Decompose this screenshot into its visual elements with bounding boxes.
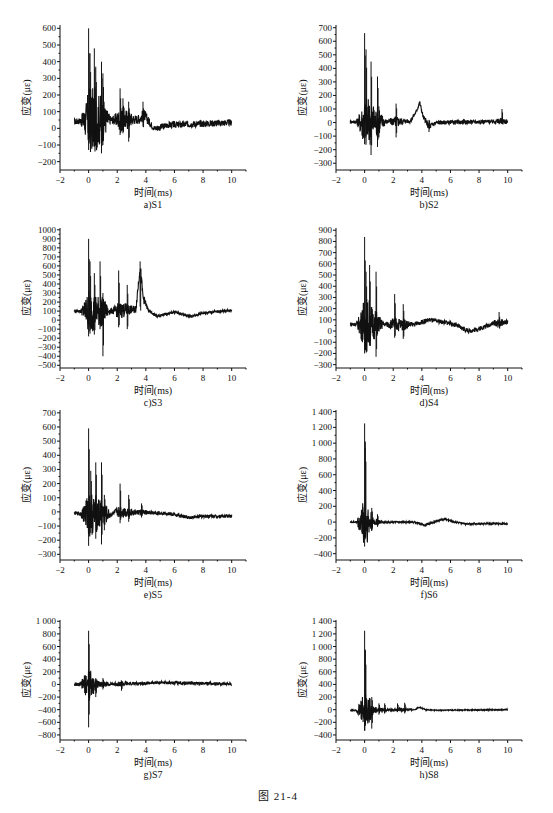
svg-text:时间(ms): 时间(ms) bbox=[410, 756, 448, 769]
panel-g: 1 0008006004002000−200−400−600−800−20246… bbox=[20, 610, 260, 780]
svg-text:0: 0 bbox=[328, 705, 333, 715]
svg-text:−100: −100 bbox=[37, 521, 56, 531]
svg-text:8: 8 bbox=[201, 565, 206, 575]
svg-text:−2: −2 bbox=[331, 745, 341, 755]
svg-text:时间(ms): 时间(ms) bbox=[410, 384, 448, 397]
svg-text:0: 0 bbox=[86, 565, 91, 575]
svg-text:700: 700 bbox=[43, 408, 57, 418]
caption-a: a)S1 bbox=[133, 199, 173, 210]
svg-text:4: 4 bbox=[144, 565, 149, 575]
svg-text:800: 800 bbox=[43, 629, 57, 639]
svg-text:600: 600 bbox=[319, 36, 333, 46]
svg-text:0: 0 bbox=[86, 745, 91, 755]
svg-text:6: 6 bbox=[172, 175, 177, 185]
svg-text:−300: −300 bbox=[37, 549, 56, 559]
svg-text:−2: −2 bbox=[331, 373, 341, 383]
svg-text:0: 0 bbox=[362, 745, 367, 755]
svg-text:时间(ms): 时间(ms) bbox=[134, 186, 172, 199]
svg-text:8: 8 bbox=[201, 373, 206, 383]
svg-text:400: 400 bbox=[43, 57, 57, 67]
strain-chart-b: 7006005004003002001000−100−200−300−20246… bbox=[296, 15, 536, 210]
caption-c: c)S3 bbox=[133, 397, 173, 408]
axes bbox=[333, 410, 522, 563]
svg-text:4: 4 bbox=[420, 175, 425, 185]
svg-text:2: 2 bbox=[391, 745, 396, 755]
axes bbox=[333, 228, 522, 371]
svg-text:4: 4 bbox=[144, 373, 149, 383]
svg-text:2: 2 bbox=[391, 175, 396, 185]
svg-text:6: 6 bbox=[448, 175, 453, 185]
caption-d: d)S4 bbox=[409, 397, 449, 408]
svg-text:−300: −300 bbox=[313, 360, 332, 370]
signal-spikes bbox=[365, 237, 500, 357]
svg-text:−400: −400 bbox=[313, 730, 332, 740]
svg-text:300: 300 bbox=[319, 77, 333, 87]
svg-text:10: 10 bbox=[227, 373, 237, 383]
panel-d: 9008007006005004003002001000−100−200−300… bbox=[296, 218, 536, 408]
svg-text:100: 100 bbox=[319, 315, 333, 325]
svg-text:时间(ms): 时间(ms) bbox=[410, 576, 448, 589]
svg-text:时间(ms): 时间(ms) bbox=[134, 576, 172, 589]
svg-text:400: 400 bbox=[43, 450, 57, 460]
svg-text:应变(με): 应变(με) bbox=[20, 79, 33, 115]
signal-spikes bbox=[365, 33, 503, 155]
svg-text:600: 600 bbox=[43, 23, 57, 33]
svg-text:600: 600 bbox=[319, 259, 333, 269]
svg-text:1 200: 1 200 bbox=[312, 422, 333, 432]
svg-text:10: 10 bbox=[227, 565, 237, 575]
svg-text:0: 0 bbox=[86, 373, 91, 383]
signal-spikes bbox=[89, 428, 143, 545]
svg-text:0: 0 bbox=[328, 517, 333, 527]
svg-text:800: 800 bbox=[319, 236, 333, 246]
svg-text:0: 0 bbox=[86, 175, 91, 185]
svg-text:6: 6 bbox=[172, 565, 177, 575]
svg-text:2: 2 bbox=[115, 745, 120, 755]
caption-g: g)S7 bbox=[133, 769, 173, 780]
caption-b: b)S2 bbox=[409, 199, 449, 210]
signal-trace bbox=[74, 495, 231, 537]
axes bbox=[57, 25, 246, 173]
strain-chart-c: 10009008007006005004003002001000−100−200… bbox=[20, 218, 260, 408]
svg-text:100: 100 bbox=[319, 104, 333, 114]
svg-text:10: 10 bbox=[503, 373, 513, 383]
svg-text:0: 0 bbox=[362, 565, 367, 575]
signal-trace bbox=[74, 87, 231, 152]
svg-text:−800: −800 bbox=[37, 730, 56, 740]
svg-text:−400: −400 bbox=[313, 549, 332, 559]
svg-text:200: 200 bbox=[43, 90, 57, 100]
svg-text:2: 2 bbox=[115, 565, 120, 575]
svg-text:应变(με): 应变(με) bbox=[20, 467, 33, 503]
figure-title: 图 21-4 bbox=[258, 787, 298, 803]
panel-b: 7006005004003002001000−100−200−300−20246… bbox=[296, 15, 536, 210]
svg-text:300: 300 bbox=[43, 73, 57, 83]
svg-text:600: 600 bbox=[319, 667, 333, 677]
caption-h: h)S8 bbox=[409, 769, 449, 780]
svg-text:1 000: 1 000 bbox=[312, 438, 333, 448]
svg-text:6: 6 bbox=[448, 745, 453, 755]
svg-text:0: 0 bbox=[52, 679, 57, 689]
svg-text:10: 10 bbox=[227, 745, 237, 755]
axes bbox=[333, 620, 522, 743]
svg-text:−200: −200 bbox=[37, 692, 56, 702]
svg-text:4: 4 bbox=[144, 175, 149, 185]
panel-e: 7006005004003002001000−100−200−300−20246… bbox=[20, 400, 260, 600]
signal-trace bbox=[350, 299, 507, 353]
svg-text:4: 4 bbox=[420, 565, 425, 575]
svg-text:500: 500 bbox=[319, 50, 333, 60]
caption-f: f)S6 bbox=[409, 589, 449, 600]
svg-text:−400: −400 bbox=[37, 705, 56, 715]
svg-text:时间(ms): 时间(ms) bbox=[134, 384, 172, 397]
svg-text:600: 600 bbox=[319, 470, 333, 480]
svg-text:10: 10 bbox=[503, 745, 513, 755]
signal-trace bbox=[350, 694, 507, 731]
svg-text:200: 200 bbox=[43, 667, 57, 677]
svg-text:0: 0 bbox=[52, 123, 57, 133]
svg-text:−300: −300 bbox=[313, 158, 332, 168]
svg-text:−200: −200 bbox=[313, 533, 332, 543]
svg-text:应变(με): 应变(με) bbox=[296, 467, 309, 503]
svg-text:0: 0 bbox=[362, 175, 367, 185]
svg-text:300: 300 bbox=[319, 292, 333, 302]
svg-text:−200: −200 bbox=[313, 145, 332, 155]
svg-text:600: 600 bbox=[43, 642, 57, 652]
svg-text:400: 400 bbox=[319, 281, 333, 291]
